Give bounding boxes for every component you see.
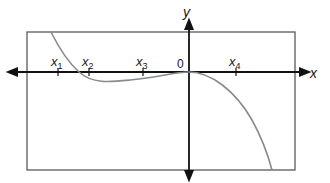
function-graph: x y 0 x1 x2 x3 x4 bbox=[0, 0, 330, 183]
tick-label-x4-sub: 4 bbox=[236, 61, 241, 71]
tick-label-x3-sub: 3 bbox=[143, 61, 148, 71]
tick-label-x1-sub: 1 bbox=[58, 61, 63, 71]
x-axis-label: x bbox=[309, 65, 318, 81]
function-curve bbox=[51, 32, 272, 170]
y-axis-label: y bbox=[182, 4, 191, 20]
tick-label-x3: x3 bbox=[135, 54, 148, 71]
tick-label-x1: x1 bbox=[50, 54, 63, 71]
viewing-window-frame bbox=[27, 32, 295, 170]
tick-label-x4: x4 bbox=[228, 54, 241, 71]
origin-label: 0 bbox=[177, 57, 184, 71]
tick-label-x2-sub: 2 bbox=[89, 61, 94, 71]
tick-label-x2: x2 bbox=[81, 54, 94, 71]
